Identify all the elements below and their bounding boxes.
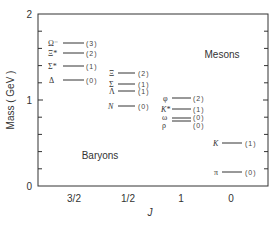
x-axis-label: J <box>147 207 154 218</box>
count-label: (0) <box>193 114 205 122</box>
count-label: (0) <box>86 77 98 85</box>
count-label: (1) <box>193 106 205 114</box>
count-label: (1) <box>138 88 150 96</box>
count-label: (1) <box>86 63 98 71</box>
count-label: (1) <box>245 140 257 148</box>
sigma-star-label: Σ* <box>48 62 57 71</box>
xi-label: Ξ <box>109 69 114 78</box>
xi-star-label: Ξ* <box>48 49 57 58</box>
baryons-j3-2: Ω⁻ (3) Ξ* (2) Σ* (1) Δ (0) <box>48 39 98 85</box>
x-tick-1-2: 1/2 <box>121 193 135 204</box>
delta-label: Δ <box>49 76 54 85</box>
y-tick-1: 1 <box>26 95 32 106</box>
y-tick-0: 0 <box>26 181 32 192</box>
omega-minus-label: Ω⁻ <box>48 39 58 48</box>
plot-frame <box>38 14 268 186</box>
count-label: (3) <box>86 40 98 48</box>
mesons-label: Mesons <box>204 49 239 60</box>
baryons-j1-2: Ξ (2) Σ (1) Λ (1) N (0) <box>107 69 150 111</box>
kaon-label: K <box>212 139 219 148</box>
count-label: (2) <box>138 70 150 78</box>
baryons-label: Baryons <box>82 150 119 161</box>
x-tick-1: 1 <box>178 193 184 204</box>
right-ticks <box>263 31 268 169</box>
phi-label: φ <box>163 94 168 103</box>
y-axis-label: Mass ( GeV ) <box>5 71 16 130</box>
left-ticks <box>38 31 43 169</box>
count-label: (0) <box>193 122 205 130</box>
count-label: (2) <box>86 50 98 58</box>
x-tick-0: 0 <box>228 193 234 204</box>
count-label: (0) <box>245 169 257 177</box>
count-label: (2) <box>193 95 205 103</box>
rho-label: ρ <box>162 121 166 130</box>
lambda-label: Λ <box>109 87 115 96</box>
mesons-j1: φ (2) K* (1) ω (0) ρ (0) <box>160 94 205 130</box>
y-tick-2: 2 <box>26 9 32 20</box>
count-label: (0) <box>138 103 150 111</box>
mesons-j0: K (1) π (0) <box>212 139 257 177</box>
pion-label: π <box>214 168 218 177</box>
nucleon-label: N <box>107 102 114 111</box>
mass-chart: 2 1 0 Mass ( GeV ) 3/2 1/2 1 0 J Mesons … <box>0 0 279 225</box>
x-tick-3-2: 3/2 <box>67 193 81 204</box>
